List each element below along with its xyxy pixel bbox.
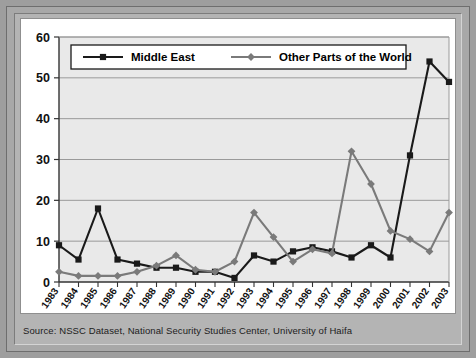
y-axis-tick-label: 30 (36, 153, 50, 167)
plot-area-wrapper: 0102030405060 19831984198519861987198819… (21, 19, 457, 315)
legend-item-label: Middle East (131, 51, 195, 63)
x-axis-tick-label: 2001 (390, 285, 412, 310)
legend-item-label: Other Parts of the World (279, 51, 412, 63)
data-point-marker (114, 256, 120, 262)
data-point-marker (75, 256, 81, 262)
y-axis-tick-label: 50 (36, 71, 50, 85)
data-point-marker (134, 261, 140, 267)
x-axis-tick-label: 1997 (312, 285, 334, 310)
data-point-marker (407, 152, 413, 158)
chart-figure: 0102030405060 19831984198519861987198819… (0, 0, 476, 358)
x-axis-tick-label: 1992 (214, 285, 236, 310)
data-point-marker (348, 254, 354, 260)
x-axis-tick-label: 2002 (409, 285, 431, 310)
x-axis-tick-label: 2000 (370, 285, 392, 310)
chart-card: 0102030405060 19831984198519861987198819… (20, 18, 456, 314)
data-point-marker (426, 58, 432, 64)
data-point-marker (231, 275, 237, 281)
y-axis-tick-label: 20 (36, 194, 50, 208)
data-point-marker (251, 252, 257, 258)
data-point-marker (446, 79, 452, 85)
x-axis-tick-label: 1988 (136, 285, 158, 310)
x-axis-tick-label: 1996 (292, 285, 314, 310)
x-axis-ticks-group: 1983198419851986198719881989199019911992… (39, 282, 451, 310)
x-axis-tick-label: 1984 (58, 285, 80, 310)
y-axis-tick-label: 10 (36, 235, 50, 249)
source-strip: Source: NSSC Dataset, National Security … (20, 320, 456, 340)
line-chart-svg: 0102030405060 19831984198519861987198819… (21, 19, 457, 315)
y-axis-tick-label: 40 (36, 112, 50, 126)
data-point-marker (368, 242, 374, 248)
data-point-marker (290, 248, 296, 254)
x-axis-tick-label: 1991 (195, 285, 217, 310)
x-axis-tick-label: 1995 (273, 285, 295, 310)
x-axis-tick-label: 1987 (117, 285, 139, 310)
data-point-marker (387, 254, 393, 260)
data-point-marker (95, 205, 101, 211)
x-axis-tick-label: 1993 (234, 285, 256, 310)
x-axis-tick-label: 1986 (97, 285, 119, 310)
legend-marker-sample (100, 54, 106, 60)
data-point-marker (173, 265, 179, 271)
y-axis-tick-label: 0 (43, 276, 50, 290)
x-axis-tick-label: 1985 (78, 285, 100, 310)
x-axis-tick-label: 1999 (351, 285, 373, 310)
x-axis-tick-label: 1998 (331, 285, 353, 310)
x-axis-tick-label: 2003 (429, 285, 451, 310)
source-caption: Source: NSSC Dataset, National Security … (20, 325, 352, 336)
data-point-marker (56, 242, 62, 248)
x-axis-tick-label: 1990 (175, 285, 197, 310)
data-point-marker (270, 258, 276, 264)
x-axis-tick-label: 1989 (156, 285, 178, 310)
y-axis-ticks-group: 0102030405060 (36, 31, 59, 290)
x-axis-tick-label: 1994 (253, 285, 275, 310)
legend-group: Middle EastOther Parts of the World (71, 45, 412, 69)
y-axis-tick-label: 60 (36, 31, 50, 45)
